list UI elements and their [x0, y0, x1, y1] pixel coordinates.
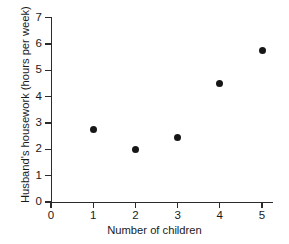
y-tick-mark — [45, 149, 51, 150]
y-tick-mark — [45, 175, 51, 176]
x-tick-mark — [177, 202, 178, 208]
y-tick-mark — [45, 96, 51, 97]
y-axis-title: Husband's housework (hours per week) — [20, 6, 31, 203]
data-point — [259, 47, 266, 54]
scatter-plot-figure: 01234567 012345 Husband's housework (hou… — [0, 0, 289, 244]
x-tick-mark — [219, 202, 220, 208]
data-point — [174, 134, 181, 141]
x-tick-label: 3 — [163, 210, 193, 222]
x-tick-label: 4 — [205, 210, 235, 222]
data-point — [216, 80, 223, 87]
x-axis-title: Number of children — [0, 225, 289, 236]
data-point — [132, 146, 139, 153]
x-tick-label: 5 — [247, 210, 277, 222]
y-tick-mark — [45, 70, 51, 71]
x-tick-label: 1 — [78, 210, 108, 222]
data-point — [90, 126, 97, 133]
x-tick-mark — [135, 202, 136, 208]
x-tick-mark — [93, 202, 94, 208]
y-tick-mark — [45, 43, 51, 44]
plot-area: 01234567 012345 Husband's housework (hou… — [0, 0, 289, 244]
y-tick-mark — [45, 122, 51, 123]
x-tick-mark — [261, 202, 262, 208]
y-axis-line — [51, 17, 52, 203]
x-tick-label: 0 — [36, 210, 66, 222]
x-axis-line — [51, 202, 273, 203]
x-tick-label: 2 — [120, 210, 150, 222]
x-tick-mark — [50, 202, 51, 208]
y-tick-mark — [45, 17, 51, 18]
